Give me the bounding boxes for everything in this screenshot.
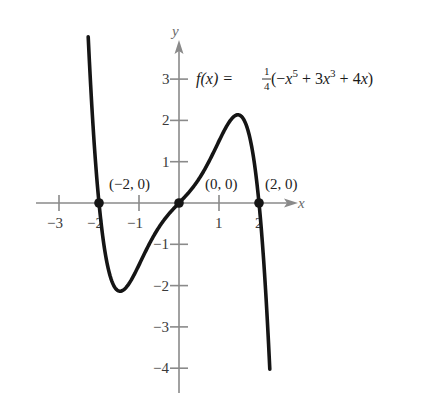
y-tick-label: −3: [153, 319, 169, 335]
x-axis-label: x: [297, 195, 305, 211]
y-tick-label: −2: [153, 278, 169, 294]
formula-mid2: + 4: [336, 70, 361, 87]
x-tick-label: −3: [47, 215, 63, 231]
function-formula: f(x) = 1 4 (−x5 + 3x3 + 4x): [196, 65, 373, 92]
x-tick-label: 1: [215, 215, 223, 231]
x-tick-label: −1: [127, 215, 143, 231]
formula-close: ): [368, 70, 373, 88]
formula-open: (−: [271, 70, 285, 88]
y-tick-label: 1: [162, 154, 170, 170]
y-tick-label: 3: [162, 71, 170, 87]
formula-x3: x: [360, 70, 368, 87]
point-label: (−2, 0): [109, 176, 150, 193]
zero-point-marker: [174, 198, 184, 208]
formula-x2: x: [322, 70, 330, 87]
formula-x1: x: [284, 70, 292, 87]
tick-labels: −3−2−112−4−3−2−1123: [47, 71, 263, 376]
formula-lhs: f(x) =: [196, 70, 233, 88]
point-label: (0, 0): [205, 176, 238, 193]
zero-point-marker: [254, 198, 264, 208]
svg-text:(−x5 + 3x3 + 4x): (−x5 + 3x3 + 4x): [271, 67, 373, 88]
formula-frac-num: 1: [264, 65, 270, 77]
y-tick-label: 2: [162, 112, 170, 128]
point-label: (2, 0): [265, 176, 298, 193]
y-tick-label: −4: [153, 360, 169, 376]
formula-mid1: + 3: [298, 70, 323, 87]
zero-point-marker: [94, 198, 104, 208]
formula-frac-den: 4: [264, 80, 270, 92]
svg-text:f(x) =: f(x) =: [196, 70, 233, 88]
y-tick-label: −1: [153, 236, 169, 252]
function-graph: −3−2−112−4−3−2−1123 (−2, 0)(0, 0)(2, 0) …: [0, 0, 434, 414]
y-axis-label: y: [170, 23, 179, 39]
